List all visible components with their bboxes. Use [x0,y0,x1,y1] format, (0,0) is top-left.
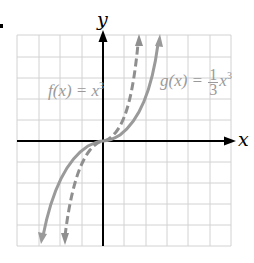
curve-f-bottom-arrow-icon [61,233,69,245]
g-function-label: g(x) = 13x3 [160,68,232,97]
curve-g-top-arrow-icon [155,34,163,47]
axes [17,30,236,246]
g-label-exponent: 3 [227,70,232,81]
g-label-var: x [219,71,227,90]
g-label-text: g(x) = [160,71,207,90]
f-function-label: f(x) = x3 [48,80,104,101]
x-axis-arrow-icon [224,137,236,146]
f-label-text: f(x) = x [48,81,99,100]
function-graph [0,0,254,263]
curve-f-top-arrow-icon [135,34,143,46]
f-label-exponent: 3 [99,80,104,91]
x-axis-label: x [238,128,249,150]
y-axis-label: y [97,8,108,30]
y-axis-arrow-icon [99,30,108,42]
g-label-fraction: 13 [208,68,218,97]
g-fraction-denominator: 3 [208,83,218,97]
